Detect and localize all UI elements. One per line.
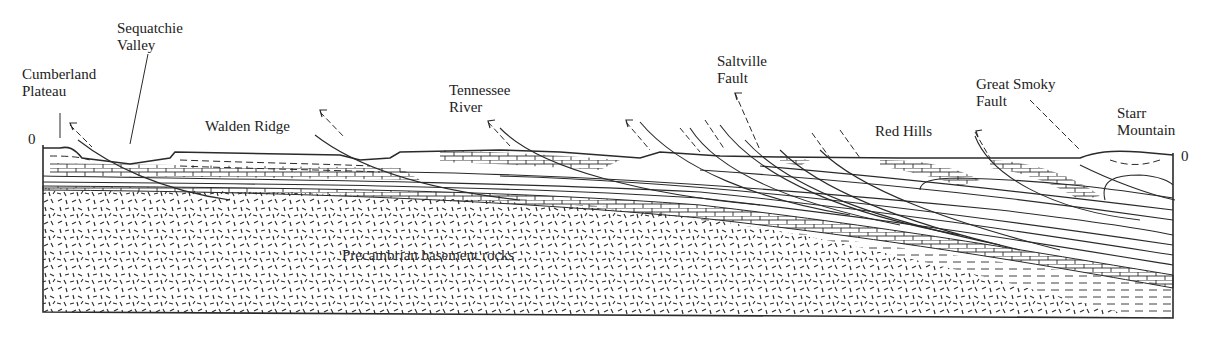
cross-section-drawing <box>0 0 1214 339</box>
cross-section-figure: Sequatchie Valley Cumberland Plateau Wal… <box>0 0 1214 339</box>
